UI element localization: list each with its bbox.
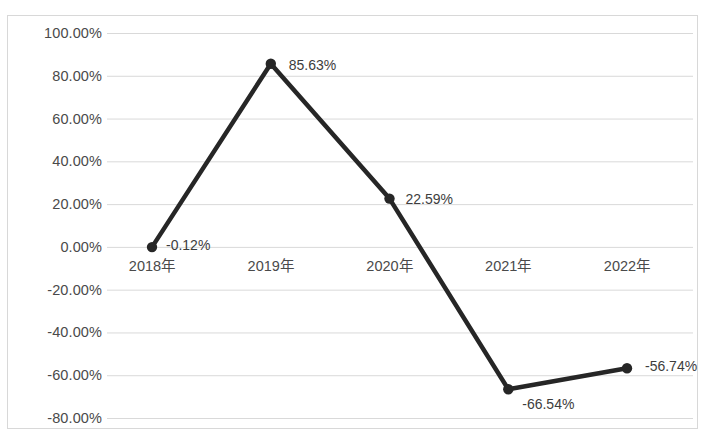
y-axis-tick-label: 20.00%: [52, 197, 102, 212]
data-point-label: -0.12%: [166, 238, 210, 252]
data-point-marker: [147, 242, 157, 252]
x-axis-tick-label: 2019年: [248, 259, 294, 274]
y-axis-tick-label: 60.00%: [52, 112, 102, 127]
x-axis-tick-label: 2018年: [129, 259, 175, 274]
y-axis-tick-label: -40.00%: [47, 325, 102, 340]
y-axis-tick-label: 80.00%: [52, 69, 102, 84]
data-point-marker: [503, 384, 513, 394]
y-axis-tick-label: 40.00%: [52, 154, 102, 169]
x-axis-tick-label: 2021年: [485, 259, 531, 274]
data-point-label: -56.74%: [645, 359, 697, 373]
y-axis-tick-label: -80.00%: [47, 411, 102, 426]
line-chart: 100.00%80.00%60.00%40.00%20.00%0.00%-20.…: [0, 0, 706, 437]
x-axis-tick-label: 2020年: [366, 259, 412, 274]
gridlines: [107, 34, 693, 419]
y-axis-tick-label: 0.00%: [60, 240, 102, 255]
data-point-label: -66.54%: [522, 397, 574, 411]
data-point-marker: [384, 193, 394, 203]
data-point-label: 85.63%: [289, 58, 336, 72]
y-axis-tick-label: -20.00%: [47, 283, 102, 298]
data-point-marker: [266, 59, 276, 69]
series-markers: [147, 59, 632, 395]
y-axis-tick-label: 100.00%: [44, 26, 102, 41]
data-point-label: 22.59%: [406, 192, 453, 206]
data-point-marker: [622, 363, 632, 373]
y-axis-tick-label: -60.00%: [47, 368, 102, 383]
x-axis-tick-label: 2022年: [604, 259, 650, 274]
chart-canvas: [0, 0, 706, 437]
series-line: [152, 64, 627, 390]
